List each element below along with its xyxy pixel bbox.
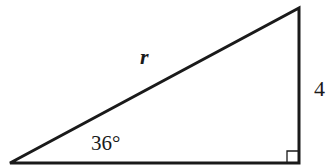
right-angle-marker — [287, 151, 299, 163]
angle-label: 36° — [91, 131, 120, 155]
triangle-shape — [10, 8, 299, 163]
side-label: 4 — [314, 76, 325, 101]
hypotenuse-label: r — [140, 44, 149, 69]
triangle-diagram: r 4 36° — [0, 0, 330, 167]
